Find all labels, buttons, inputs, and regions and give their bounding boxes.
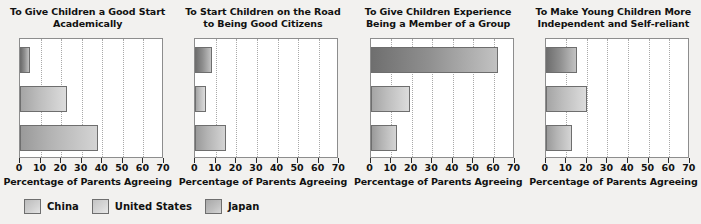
axis-tick-label: 70: [332, 162, 345, 173]
axis-tick-label: 40: [620, 162, 633, 173]
x-axis-title: Percentage of Parents Agreeing: [351, 176, 526, 187]
bar-group: [546, 39, 688, 157]
axis-tick-label: 70: [156, 162, 169, 173]
legend-swatch-icon: [24, 199, 41, 214]
x-axis-title: Percentage of Parents Agreeing: [0, 176, 175, 187]
panel-title: To Give Children a Good Start Academical…: [4, 6, 171, 29]
axis-tick-label: 30: [249, 162, 262, 173]
legend-swatch-icon: [92, 199, 109, 214]
plot-area: [545, 38, 689, 158]
axis-tick-label: 20: [579, 162, 592, 173]
plot-wrapper: [19, 38, 163, 158]
plot-area: [19, 38, 163, 158]
x-axis-title: Percentage of Parents Agreeing: [526, 176, 701, 187]
legend-label: United States: [115, 201, 192, 212]
plot-area: [194, 38, 338, 158]
axis-tick-label: 40: [95, 162, 108, 173]
axis-tick-label: 50: [290, 162, 303, 173]
legend-item: Japan: [205, 199, 260, 214]
axis-tick-label: 40: [270, 162, 283, 173]
legend-label: China: [47, 201, 79, 212]
legend-label: Japan: [228, 201, 260, 212]
bar-group: [195, 39, 337, 157]
bar-group: [20, 39, 162, 157]
bar-china: [20, 47, 30, 73]
axis-tick-label: 20: [229, 162, 242, 173]
axis-tick-label: 10: [559, 162, 572, 173]
axis-tick-label: 50: [466, 162, 479, 173]
bar-japan: [195, 125, 226, 151]
bar-japan: [371, 125, 398, 151]
bar-china: [195, 47, 211, 73]
x-axis-labels: 010203040506070: [175, 162, 350, 176]
axis-tick-label: 10: [208, 162, 221, 173]
axis-tick-label: 10: [383, 162, 396, 173]
bar-us: [20, 86, 67, 112]
chart-panel: To Make Young Children More Independent …: [526, 0, 701, 190]
bar-us: [546, 86, 587, 112]
axis-tick-label: 0: [16, 162, 23, 173]
bar-us: [195, 86, 205, 112]
axis-tick-label: 60: [486, 162, 499, 173]
bar-china: [371, 47, 499, 73]
bar-japan: [20, 125, 98, 151]
axis-tick-label: 0: [191, 162, 198, 173]
bar-china: [546, 47, 577, 73]
axis-tick-label: 30: [425, 162, 438, 173]
axis-tick-label: 10: [33, 162, 46, 173]
axis-tick-label: 50: [115, 162, 128, 173]
plot-area: [370, 38, 514, 158]
chart-panel: To Give Children a Good Start Academical…: [0, 0, 175, 190]
plot-wrapper: [545, 38, 689, 158]
axis-tick-label: 70: [507, 162, 520, 173]
legend-item: China: [24, 199, 79, 214]
chart-panel: To Give Children Experience Being a Memb…: [351, 0, 526, 190]
plot-wrapper: [370, 38, 514, 158]
plot-wrapper: [194, 38, 338, 158]
bar-japan: [546, 125, 573, 151]
panel-title: To Make Young Children More Independent …: [530, 6, 697, 29]
panel-title: To Start Children on the Road to Being G…: [179, 6, 346, 29]
panel-row: To Give Children a Good Start Academical…: [0, 0, 701, 190]
panel-title: To Give Children Experience Being a Memb…: [355, 6, 522, 29]
legend-item: United States: [92, 199, 192, 214]
axis-tick-label: 30: [74, 162, 87, 173]
axis-tick-label: 60: [311, 162, 324, 173]
x-axis-labels: 010203040506070: [0, 162, 175, 176]
axis-tick-label: 0: [541, 162, 548, 173]
bar-group: [371, 39, 513, 157]
axis-tick-label: 30: [600, 162, 613, 173]
axis-tick-label: 60: [136, 162, 149, 173]
axis-tick-label: 70: [682, 162, 695, 173]
x-axis-title: Percentage of Parents Agreeing: [175, 176, 350, 187]
x-axis-labels: 010203040506070: [351, 162, 526, 176]
axis-tick-label: 0: [366, 162, 373, 173]
chart-legend: ChinaUnited StatesJapan: [24, 199, 272, 214]
axis-tick-label: 20: [54, 162, 67, 173]
axis-tick-label: 40: [445, 162, 458, 173]
chart-panel: To Start Children on the Road to Being G…: [175, 0, 350, 190]
bar-us: [371, 86, 410, 112]
multi-panel-bar-chart: To Give Children a Good Start Academical…: [0, 0, 701, 224]
x-axis-labels: 010203040506070: [526, 162, 701, 176]
axis-tick-label: 60: [662, 162, 675, 173]
legend-swatch-icon: [205, 199, 222, 214]
axis-tick-label: 50: [641, 162, 654, 173]
axis-tick-label: 20: [404, 162, 417, 173]
